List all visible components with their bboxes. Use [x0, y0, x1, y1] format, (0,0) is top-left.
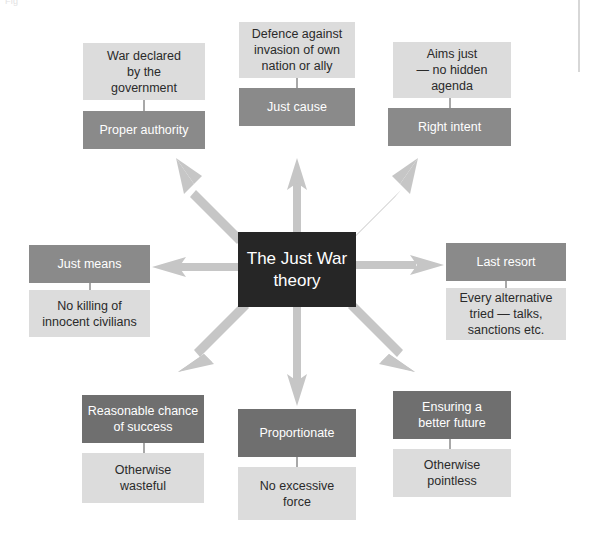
detail-text-ensuring-better-future: Otherwisepointless	[397, 457, 507, 489]
detail-box-proper-authority: War declaredby thegovernment	[83, 43, 205, 100]
arrow-to-just-cause	[287, 158, 307, 232]
criterion-box-right-intent: Right intent	[388, 108, 511, 146]
arrow-to-just-means	[152, 257, 238, 277]
center-node-label: The Just Wartheory	[242, 248, 352, 291]
arrow-to-last-resort	[356, 255, 444, 275]
arrow-to-reasonable-chance	[178, 301, 249, 372]
detail-text-proportionate: No excessiveforce	[242, 478, 352, 510]
detail-text-just-cause: Defence againstinvasion of ownnation or …	[243, 26, 351, 74]
arrow-to-proper-authority	[176, 158, 243, 244]
criterion-text-proper-authority: Proper authority	[87, 122, 201, 138]
criterion-text-just-cause: Just cause	[243, 99, 351, 115]
criterion-box-just-means: Just means	[29, 245, 150, 283]
detail-box-proportionate: No excessiveforce	[238, 467, 356, 520]
detail-box-right-intent: Aims just— no hiddenagenda	[393, 42, 511, 98]
detail-box-last-resort: Every alternativetried — talks,sanctions…	[446, 288, 566, 340]
criterion-text-ensuring-better-future: Ensuring abetter future	[397, 399, 507, 431]
criterion-box-ensuring-better-future: Ensuring abetter future	[393, 391, 511, 439]
center-node-just-war-theory: The Just Wartheory	[238, 232, 356, 307]
criterion-text-just-means: Just means	[33, 256, 146, 272]
detail-text-right-intent: Aims just— no hiddenagenda	[397, 46, 507, 94]
detail-box-just-means: No killing ofinnocent civilians	[29, 290, 150, 337]
detail-box-reasonable-chance: Otherwisewasteful	[82, 453, 204, 503]
connector-reasonable-chance	[143, 443, 145, 453]
connector-just-cause	[296, 78, 298, 88]
connector-ensuring-better-future	[449, 439, 451, 449]
criterion-text-reasonable-chance: Reasonable chanceof success	[86, 403, 200, 435]
just-war-theory-diagram: Fig	[0, 0, 591, 545]
connector-proportionate	[296, 457, 298, 467]
criterion-box-proportionate: Proportionate	[238, 409, 356, 457]
page-caption-ghost: Fig	[5, 0, 18, 6]
criterion-text-proportionate: Proportionate	[242, 425, 352, 441]
criterion-box-just-cause: Just cause	[239, 88, 355, 126]
detail-text-reasonable-chance: Otherwisewasteful	[86, 462, 200, 494]
detail-text-proper-authority: War declaredby thegovernment	[87, 48, 201, 96]
detail-box-just-cause: Defence againstinvasion of ownnation or …	[239, 22, 355, 78]
detail-text-last-resort: Every alternativetried — talks,sanctions…	[450, 290, 562, 338]
detail-box-ensuring-better-future: Otherwisepointless	[393, 449, 511, 497]
criterion-box-reasonable-chance: Reasonable chanceof success	[82, 395, 204, 443]
connector-proper-authority	[143, 100, 145, 111]
criterion-box-last-resort: Last resort	[446, 243, 566, 281]
criterion-text-last-resort: Last resort	[450, 254, 562, 270]
arrow-to-ensuring-better-future	[348, 301, 415, 372]
arrow-to-right-intent	[348, 158, 418, 244]
connector-right-intent	[449, 98, 451, 108]
arrow-to-proportionate	[287, 307, 307, 406]
scan-edge-artifact	[578, 0, 580, 72]
criterion-text-right-intent: Right intent	[392, 119, 507, 135]
detail-text-just-means: No killing ofinnocent civilians	[33, 298, 146, 330]
criterion-box-proper-authority: Proper authority	[83, 111, 205, 149]
